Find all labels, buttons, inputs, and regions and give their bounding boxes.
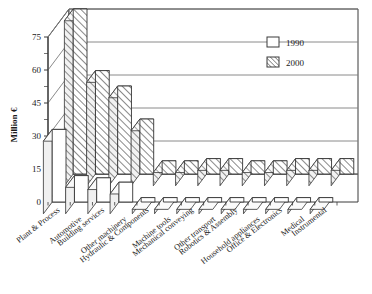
hatched-square-swatch	[267, 57, 279, 67]
bar-1990-0	[43, 129, 66, 213]
y-tick-label-75: 75	[32, 32, 42, 42]
y-axis: 0 15 30 45 60 75 Million €	[9, 32, 48, 207]
legend-label-1990: 1990	[286, 38, 305, 48]
y-tick-label-60: 60	[32, 65, 42, 75]
y-tick-label-30: 30	[32, 131, 42, 141]
bar-2000-0	[64, 9, 87, 186]
y-tick-label-45: 45	[32, 98, 42, 108]
bar-2000-2	[109, 86, 132, 186]
bar-chart-3d: 0 15 30 45 60 75 Million € Plant & Proce…	[0, 0, 372, 294]
chart-container: 0 15 30 45 60 75 Million € Plant & Proce…	[0, 0, 372, 294]
y-tick-label-0: 0	[37, 197, 42, 207]
empty-square-swatch	[267, 37, 279, 47]
legend-label-2000: 2000	[286, 58, 305, 68]
bar-2000-1	[87, 71, 110, 186]
y-axis-title: Million €	[9, 107, 19, 142]
y-tick-label-15: 15	[32, 164, 42, 174]
